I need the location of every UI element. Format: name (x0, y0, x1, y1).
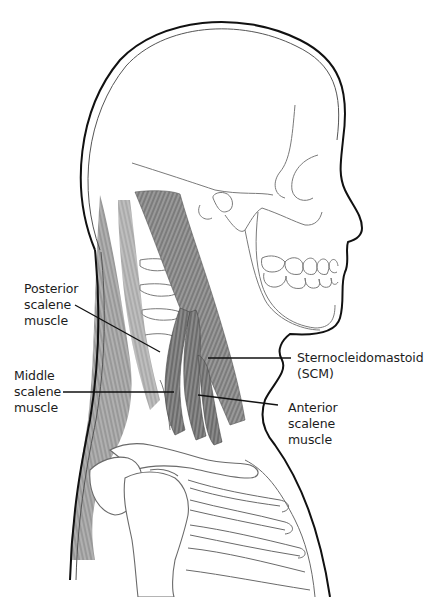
shoulder-and-ribcage (90, 444, 258, 597)
label-posterior-scalene: Posterior scalene muscle (24, 281, 78, 329)
label-middle-scalene: Middle scalene muscle (14, 368, 61, 416)
label-sternocleidomastoid: Sternocleidomastoid (SCM) (297, 350, 424, 382)
label-anterior-scalene: Anterior scalene muscle (288, 400, 338, 448)
